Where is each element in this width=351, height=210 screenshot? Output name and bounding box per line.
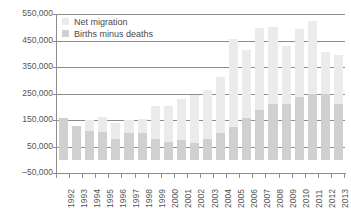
bar-segment-net-migration <box>321 52 330 94</box>
bar-group <box>308 14 317 160</box>
bar-segment-net-migration <box>151 106 160 139</box>
bar-segment-net-migration <box>295 29 304 97</box>
bar-segment-births-minus-deaths <box>216 133 225 160</box>
bar-segment-births-minus-deaths <box>59 118 68 160</box>
x-axis-tick-label: 1997 <box>132 189 141 208</box>
bar-segment-births-minus-deaths <box>242 118 251 160</box>
bar-segment-net-migration <box>111 123 120 138</box>
legend-swatch-icon <box>62 30 69 37</box>
bar-segment-net-migration <box>334 55 343 103</box>
y-axis-tick-label: 350,000 <box>22 62 53 71</box>
bar-segment-births-minus-deaths <box>334 104 343 160</box>
x-axis-tick-label: 1999 <box>158 189 167 208</box>
y-axis-tick-label: 450,000 <box>22 36 53 45</box>
y-axis-tick-label: 150,000 <box>22 115 53 124</box>
bar-group <box>242 14 251 160</box>
bar-segment-net-migration <box>282 46 291 105</box>
bar-segment-births-minus-deaths <box>138 133 147 160</box>
bar-segment-net-migration <box>138 119 147 134</box>
bar-segment-net-migration <box>190 95 199 143</box>
bar-segment-births-minus-deaths <box>203 139 212 160</box>
y-axis-labels: 550,000450,000350,000250,000150,00050,00… <box>0 0 53 210</box>
bar-segment-births-minus-deaths <box>190 143 199 160</box>
bar-group <box>334 14 343 160</box>
x-axis-tick-label: 2005 <box>237 189 246 208</box>
bar-segment-births-minus-deaths <box>72 126 81 160</box>
y-axis-tick-label: 250,000 <box>22 89 53 98</box>
x-axis-tick-label: 2003 <box>211 189 220 208</box>
bar-segment-births-minus-deaths <box>85 131 94 160</box>
legend-item-label: Net migration <box>74 17 128 27</box>
bar-segment-births-minus-deaths <box>111 139 120 160</box>
bar-segment-net-migration <box>98 117 107 132</box>
bar-segment-net-migration <box>229 39 238 127</box>
bar-segment-births-minus-deaths <box>98 132 107 160</box>
x-axis-tick-label: 1994 <box>93 189 102 208</box>
bar-segment-births-minus-deaths <box>268 104 277 160</box>
bar-group <box>321 14 330 160</box>
y-axis-tick-label: –50,000 <box>22 168 53 177</box>
x-axis-tick-label: 2010 <box>302 189 311 208</box>
x-axis-tick-label: 1992 <box>67 189 76 208</box>
legend-item-label: Births minus deaths <box>74 29 153 39</box>
bar-segment-net-migration <box>255 28 264 111</box>
bar-segment-net-migration <box>85 120 94 131</box>
bar-group <box>268 14 277 160</box>
bar-segment-net-migration <box>216 77 225 133</box>
x-axis-tick-label: 2012 <box>328 189 337 208</box>
chart-legend: Net migrationBirths minus deaths <box>62 16 182 40</box>
bar-group <box>190 14 199 160</box>
x-axis-tick-label: 1993 <box>80 189 89 208</box>
bar-group <box>295 14 304 160</box>
x-axis-tick-label: 2000 <box>171 189 180 208</box>
legend-item: Births minus deaths <box>62 28 182 39</box>
x-axis-tick-label: 2004 <box>224 189 233 208</box>
x-axis-tick-label: 1996 <box>119 189 128 208</box>
x-axis-tick-label: 2008 <box>276 189 285 208</box>
bar-segment-births-minus-deaths <box>321 94 330 160</box>
bar-segment-births-minus-deaths <box>282 104 291 159</box>
x-axis-tick-label: 2013 <box>341 189 350 208</box>
stacked-bar-chart: 550,000450,000350,000250,000150,00050,00… <box>0 0 351 210</box>
bar-segment-net-migration <box>203 90 212 140</box>
bar-segment-births-minus-deaths <box>295 97 304 160</box>
x-axis-tick-label: 2001 <box>184 189 193 208</box>
bar-segment-births-minus-deaths <box>151 139 160 160</box>
bar-group <box>203 14 212 160</box>
bar-group <box>282 14 291 160</box>
bar-segment-net-migration <box>268 27 277 104</box>
legend-item: Net migration <box>62 16 182 27</box>
x-axis-tick-label: 2009 <box>289 189 298 208</box>
bar-segment-births-minus-deaths <box>229 127 238 160</box>
bar-segment-births-minus-deaths <box>255 110 264 160</box>
bar-group <box>255 14 264 160</box>
bar-segment-net-migration <box>124 120 133 133</box>
x-axis-tick-label: 2006 <box>250 189 259 208</box>
bar-segment-births-minus-deaths <box>164 142 173 160</box>
bar-segment-births-minus-deaths <box>308 94 317 160</box>
bar-group <box>216 14 225 160</box>
bar-segment-births-minus-deaths <box>124 133 133 160</box>
y-axis-tick-label: 550,000 <box>22 9 53 18</box>
y-axis-tick-label: 50,000 <box>27 142 53 151</box>
x-axis-tick-label: 2007 <box>263 189 272 208</box>
x-axis-tick-label: 1995 <box>106 189 115 208</box>
bar-segment-births-minus-deaths <box>177 140 186 160</box>
x-axis-tick-label: 1998 <box>145 189 154 208</box>
bar-segment-net-migration <box>308 21 317 93</box>
bar-segment-net-migration <box>164 106 173 142</box>
bar-group <box>229 14 238 160</box>
legend-swatch-icon <box>62 18 69 25</box>
bar-segment-net-migration <box>242 50 251 118</box>
x-axis-tick-label: 2002 <box>197 189 206 208</box>
x-axis-labels: 1992199319941995199619971998199920002001… <box>56 178 346 210</box>
x-axis-tick-label: 2011 <box>315 190 324 208</box>
bar-segment-net-migration <box>177 99 186 140</box>
